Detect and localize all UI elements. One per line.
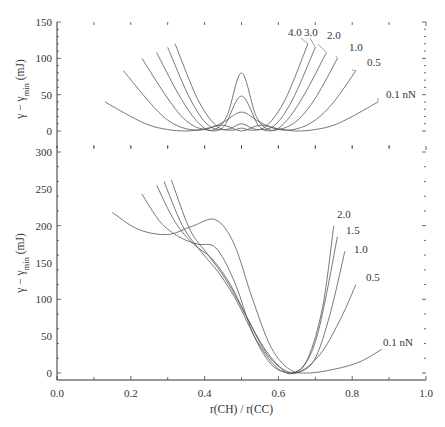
y-tick-label: 0 [47, 125, 53, 137]
curve-label: 0.1 nN [383, 336, 413, 348]
curve-label: 1.0 [354, 243, 368, 255]
x-axis-title: r(CH) / r(CC) [210, 403, 273, 416]
curve-label: 4.0 [288, 26, 302, 38]
label-leader [310, 38, 315, 47]
curve-label: 1.5 [346, 224, 360, 236]
curve-2.0 [157, 53, 327, 131]
label-leader [318, 44, 326, 53]
x-tick-label: 0.8 [345, 387, 359, 399]
curve-0.1-nN [105, 102, 378, 131]
y-tick-label: 100 [36, 293, 53, 305]
curve-4.0 [175, 44, 308, 131]
y-tick-label: 300 [36, 146, 53, 158]
curve-label: 1.0 [349, 41, 363, 53]
curve-2.0 [171, 180, 333, 374]
y-tick-label: 150 [36, 16, 53, 28]
y-tick-label: 200 [36, 220, 53, 232]
label-leader [301, 38, 308, 44]
x-tick-label: 0.4 [198, 387, 212, 399]
curve-label: 3.0 [304, 26, 318, 38]
curve-0.5 [123, 71, 356, 130]
curve-1.5 [164, 182, 337, 374]
figure: 050100150γ − γmin (mJ)4.03.02.01.00.50.1… [0, 0, 445, 427]
y-tick-label: 50 [41, 330, 53, 342]
x-tick-label: 1.0 [419, 387, 433, 399]
y-tick-label: 100 [36, 52, 53, 64]
top-panel: 050100150γ − γmin (mJ)4.03.02.01.00.50.1… [14, 16, 426, 148]
curve-label: 0.5 [367, 56, 381, 68]
y-tick-label: 50 [41, 89, 53, 101]
curve-3.0 [168, 47, 316, 129]
curve-0.1-nN [112, 212, 381, 373]
y-tick-label: 150 [36, 257, 53, 269]
curve-label: 0.1 nN [386, 88, 416, 100]
x-tick-label: 0.0 [50, 387, 64, 399]
curve-1.0 [142, 58, 338, 131]
curve-label: 2.0 [327, 29, 341, 41]
y-tick-label: 0 [47, 367, 53, 379]
curve-label: 2.0 [337, 208, 351, 220]
y-tick-label: 250 [36, 183, 53, 195]
curve-1.0 [157, 185, 345, 373]
y-axis-title: γ − γmin (mJ) [14, 233, 31, 294]
y-axis-title: γ − γmin (mJ) [14, 59, 31, 120]
x-tick-label: 0.2 [124, 387, 138, 399]
curve-label: 0.5 [366, 271, 380, 283]
label-leader [336, 56, 337, 58]
x-tick-label: 0.6 [272, 387, 286, 399]
label-leader [352, 70, 356, 71]
bottom-panel: 0501001502002503000.00.20.40.60.81.0r(CH… [14, 146, 433, 416]
